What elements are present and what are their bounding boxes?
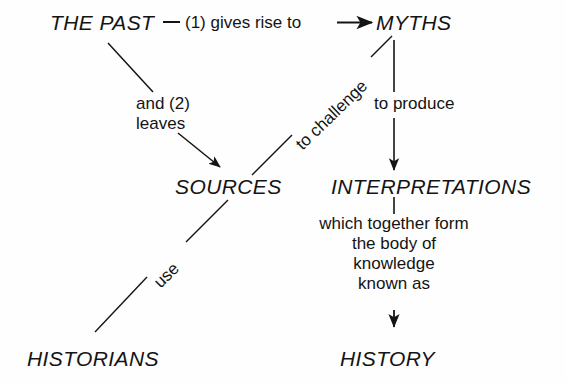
edge-label-which-together-form: which together form the body of knowledg… [294,214,494,294]
which-together-form-line3: knowledge [294,254,494,274]
edge-to-challenge-lower [252,135,292,175]
edge-label-to-challenge: to challenge [292,76,371,153]
edge-to-challenge-upper [371,36,392,57]
edge-and-leaves-lower [178,133,220,167]
node-myths: MYTHS [376,11,452,35]
edge-label-to-produce: to produce [374,94,454,113]
node-the-past: THE PAST [50,11,154,35]
edge-use-lower [95,277,147,332]
edge-label-gives-rise-to: (1) gives rise to [185,13,301,32]
edge-label-use: use [150,259,183,292]
node-history: HISTORY [340,347,435,371]
which-together-form-line1: which together form [294,214,494,234]
node-sources: SOURCES [175,175,282,199]
which-together-form-line4: known as [294,274,494,294]
edge-label-and-leaves-line2: leaves [136,114,185,133]
edge-and-leaves-upper [108,43,153,92]
which-together-form-line2: the body of [294,234,494,254]
history-flow-diagram: THE PAST MYTHS SOURCES INTERPRETATIONS H… [0,0,566,383]
node-historians: HISTORIANS [27,347,159,371]
node-interpretations: INTERPRETATIONS [331,175,531,199]
edge-label-and-leaves-line1: and (2) [136,94,190,113]
dash-connector-the-past [163,21,180,23]
edge-use-upper [186,200,228,242]
